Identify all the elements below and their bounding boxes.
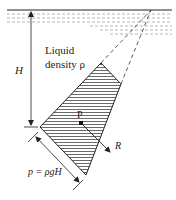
hydrostatic-diagram: H Liquid density ρ P R p = ρgH: [0, 0, 176, 200]
pressure-label: p = ρgH: [27, 166, 63, 177]
point-label: P: [77, 109, 83, 120]
resultant-label: R: [114, 140, 121, 151]
free-surface: [7, 10, 172, 34]
liquid-label-line2: density ρ: [45, 58, 86, 70]
depth-dimension: [24, 12, 38, 127]
depth-label: H: [14, 64, 24, 76]
liquid-label-line1: Liquid: [45, 44, 75, 56]
